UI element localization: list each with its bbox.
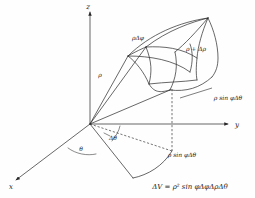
spherical-volume-element-figure: z y x ρ ρΔφ ρ + Δρ ρ sin φΔθ ρ sin φΔθ θ… (0, 0, 255, 198)
side-edge-outer-mid (170, 52, 176, 90)
outer-face-right-edge (208, 18, 218, 77)
rho-label: ρ (97, 71, 102, 79)
inner-face-top-arc-a (128, 47, 147, 56)
delta-theta-label: Δθ (108, 134, 117, 141)
leader-lines (180, 88, 212, 98)
rib-lower-b (170, 77, 212, 90)
ground-sector (68, 89, 172, 178)
x-axis-label: x (9, 183, 13, 191)
label-group: z y x ρ ρΔφ ρ + Δρ ρ sin φΔθ ρ sin φΔθ θ… (9, 3, 243, 191)
leader-rho-sin-phi-delta-theta (180, 88, 212, 98)
ground-dashed-ray (90, 124, 172, 151)
rho-sin-phi-delta-theta-upper-label: ρ sin φΔθ (213, 94, 243, 102)
theta-label: θ (79, 145, 83, 152)
diagram-canvas: z y x ρ ρΔφ ρ + Δρ ρ sin φΔθ ρ sin φΔθ θ… (0, 0, 255, 198)
ground-sector-arc (133, 151, 172, 178)
top-arc-mid (146, 18, 208, 47)
volume-formula: ΔV = ρ² sin φΔφΔρΔθ (151, 183, 228, 191)
volume-element-wireframe (128, 18, 218, 92)
rho-sin-phi-delta-theta-lower-label: ρ sin φΔθ (167, 151, 197, 159)
ground-sector-edge-left (90, 124, 133, 178)
radial-edge-upper-near (90, 56, 128, 124)
y-axis-label: y (234, 121, 240, 129)
z-axis-label: z (85, 3, 90, 11)
inner-face-bottom-arc (128, 56, 170, 92)
axis-group (16, 12, 228, 180)
rho-plus-delta-rho-label: ρ + Δρ (185, 45, 207, 53)
rho-delta-phi-label: ρΔφ (131, 34, 145, 42)
x-axis (16, 124, 90, 180)
